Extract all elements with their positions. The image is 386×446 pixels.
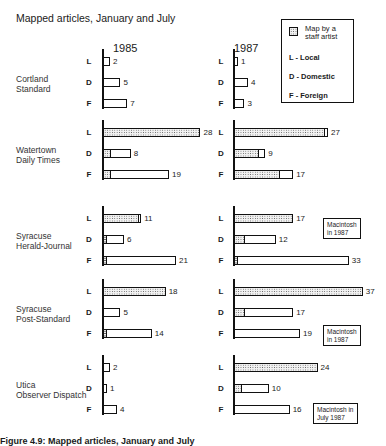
- paper-name: UticaObserver Dispatch: [16, 380, 86, 400]
- bar-d-1987: [234, 235, 276, 244]
- bar-f-1985: [103, 405, 117, 414]
- bar-f-1987: [234, 170, 293, 179]
- staff-artist-portion: [104, 129, 200, 136]
- bar-l-1987: [234, 363, 318, 372]
- staff-artist-portion: [235, 236, 245, 243]
- staff-artist-portion: [235, 171, 280, 178]
- bar-value-label: 8: [134, 149, 138, 158]
- bar-l-1987: [234, 287, 363, 296]
- macintosh-note: Macintosh inJuly 1987: [313, 403, 358, 424]
- bar-d-1987: [234, 384, 269, 393]
- bar-value-label: 2: [113, 57, 117, 66]
- bar-value-label: 11: [144, 214, 152, 223]
- row-letter-f: F: [216, 256, 226, 265]
- row-letter-l: L: [216, 363, 226, 372]
- staff-artist-portion: [235, 385, 242, 392]
- bar-f-1985: [103, 170, 169, 179]
- row-letter-l: L: [84, 287, 94, 296]
- row-letter-f: F: [216, 329, 226, 338]
- row-letter-d: D: [216, 384, 226, 393]
- bar-f-1985: [103, 256, 176, 265]
- staff-artist-portion: [104, 171, 111, 178]
- bar-d-1987: [234, 78, 248, 87]
- staff-artist-portion: [235, 150, 259, 157]
- row-letter-d: D: [216, 78, 226, 87]
- bar-l-1985: [103, 128, 200, 137]
- row-letter-f: F: [84, 170, 94, 179]
- bar-d-1985: [103, 384, 107, 393]
- bar-value-label: 33: [352, 256, 361, 265]
- staff-artist-portion: [104, 215, 139, 222]
- row-letter-l: L: [216, 128, 226, 137]
- row-letter-l: L: [84, 214, 94, 223]
- bar-l-1985: [103, 214, 141, 223]
- row-letter-d: D: [84, 384, 94, 393]
- row-letter-f: F: [84, 256, 94, 265]
- row-letter-d: D: [84, 308, 94, 317]
- bar-value-label: 14: [155, 329, 164, 338]
- bar-value-label: 4: [120, 405, 124, 414]
- legend-item-foreign: F - Foreign: [289, 91, 328, 100]
- row-letter-d: D: [84, 149, 94, 158]
- bar-value-label: 10: [272, 384, 281, 393]
- bar-l-1985: [103, 57, 110, 66]
- paper-name: SyracusePost-Standard: [16, 304, 70, 324]
- bar-value-label: 28: [203, 128, 212, 137]
- bar-value-label: 16: [293, 405, 302, 414]
- bar-value-label: 3: [247, 99, 251, 108]
- row-letter-l: L: [216, 57, 226, 66]
- bar-f-1985: [103, 329, 152, 338]
- macintosh-note: Macintoshin 1987: [323, 218, 361, 239]
- bar-l-1987: [234, 57, 238, 66]
- paper-name: WatertownDaily Times: [16, 145, 60, 165]
- year-label-1987: 1987: [234, 42, 258, 54]
- bar-value-label: 5: [123, 78, 127, 87]
- staff-artist-portion: [104, 288, 166, 295]
- chart-title: Mapped articles, January and July: [16, 12, 175, 24]
- bar-value-label: 4: [251, 78, 255, 87]
- staff-artist-portion: [235, 288, 363, 295]
- staff-artist-portion: [104, 257, 107, 264]
- bar-f-1987: [234, 256, 349, 265]
- bar-l-1985: [103, 287, 166, 296]
- bar-f-1987: [234, 329, 300, 338]
- row-letter-f: F: [84, 329, 94, 338]
- bar-value-label: 1: [110, 384, 114, 393]
- row-letter-d: D: [84, 78, 94, 87]
- year-label-1985: 1985: [113, 42, 137, 54]
- row-letter-l: L: [84, 57, 94, 66]
- staff-artist-portion: [104, 236, 107, 243]
- row-letter-d: D: [216, 308, 226, 317]
- row-letter-f: F: [216, 405, 226, 414]
- staff-artist-portion: [235, 309, 245, 316]
- row-letter-l: L: [216, 287, 226, 296]
- bar-d-1985: [103, 235, 124, 244]
- bar-value-label: 27: [331, 128, 340, 137]
- bar-value-label: 17: [296, 170, 305, 179]
- legend-swatch-label: Map by a staff artist: [305, 25, 351, 41]
- staff-artist-portion: [235, 364, 318, 371]
- bar-f-1987: [234, 99, 244, 108]
- bar-l-1987: [234, 128, 328, 137]
- row-letter-f: F: [84, 99, 94, 108]
- legend-item-domestic: D - Domestic: [289, 72, 335, 81]
- bar-f-1987: [234, 405, 290, 414]
- row-letter-d: D: [216, 235, 226, 244]
- bar-l-1985: [103, 363, 110, 372]
- bar-d-1985: [103, 78, 120, 87]
- bar-value-label: 6: [127, 235, 131, 244]
- bar-value-label: 18: [169, 287, 178, 296]
- bar-d-1985: [103, 308, 120, 317]
- bar-f-1985: [103, 99, 127, 108]
- macintosh-note: Macintoshin 1987: [323, 325, 361, 346]
- row-letter-l: L: [84, 363, 94, 372]
- bar-d-1987: [234, 308, 293, 317]
- figure-caption: Figure 4.9: Mapped articles, January and…: [0, 436, 195, 446]
- bar-d-1985: [103, 149, 131, 158]
- bar-value-label: 5: [123, 308, 127, 317]
- bar-value-label: 21: [179, 256, 188, 265]
- bar-value-label: 37: [366, 287, 375, 296]
- row-letter-f: F: [216, 99, 226, 108]
- bar-value-label: 24: [321, 363, 330, 372]
- bar-value-label: 1: [241, 57, 245, 66]
